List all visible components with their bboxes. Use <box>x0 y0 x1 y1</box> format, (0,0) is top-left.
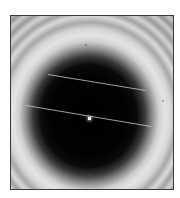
image-canvas <box>0 0 180 198</box>
concentric-rings <box>11 16 173 189</box>
dust-speck <box>162 100 164 102</box>
interference-pattern-figure <box>10 15 174 190</box>
dust-speck <box>89 174 91 176</box>
center-point <box>88 117 91 120</box>
dust-speck <box>85 44 87 46</box>
